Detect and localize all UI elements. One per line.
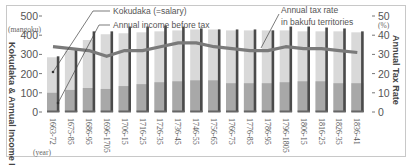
salary-marker [93,31,96,112]
x-unit-label: (year) [33,148,51,157]
annotation-income: Annual income before tax [113,20,210,30]
x-category-label: 1816-25 [317,118,326,145]
salary-marker [200,28,203,112]
y2-axis-title: Annual Tax Rate [391,35,401,105]
x-category-label: 1836-41 [352,118,361,145]
salary-marker [111,31,114,112]
x-category-label: 1663-72 [48,118,57,145]
y-tick-label: 0 [32,106,38,118]
y2-tick-label: 40 [378,29,390,41]
x-category-label: 1706-15 [120,118,129,145]
y2-tick-label: 10 [378,87,390,99]
y2-tick-label: 0 [378,106,384,118]
x-category-label: 1806-15 [299,118,308,145]
y-unit-label: (mangoku) [8,25,41,34]
salary-marker [128,27,131,112]
y2-tick-label: 30 [378,48,390,60]
bar-line-chart: 0100200300400500(mangoku)Kokudaka & Annu… [0,0,410,165]
x-category-label: 1686-95 [84,118,93,145]
x-category-label: 1756-65 [209,118,218,145]
salary-marker [343,28,346,112]
salary-marker [236,29,239,112]
y-tick-label: 100 [20,87,38,99]
x-category-label: 1696-1705 [102,118,111,153]
x-category-label: 1776-85 [245,118,254,145]
x-category-label: 1786-95 [263,118,272,145]
x-category-label: 1826-35 [334,118,343,145]
x-category-label: 1766-75 [227,118,236,145]
y2-unit-label: (%) [378,21,390,30]
annotation-kokudaka: Kokudaka (=salary) [113,6,187,16]
x-category-label: 1726-35 [155,118,164,145]
salary-marker [307,27,310,112]
y2-tick-label: 20 [378,68,390,80]
x-category-label: 1796-1805 [281,118,290,153]
x-category-label: 1746-55 [191,118,200,145]
salary-marker [164,26,167,112]
y-tick-label: 500 [20,10,38,22]
salary-marker [75,49,78,112]
salary-marker [290,27,293,112]
x-category-label: 1736-45 [173,118,182,145]
tax-rate-line [53,43,357,56]
y-tick-label: 300 [20,48,38,60]
x-category-label: 1675-85 [66,118,75,145]
y-tick-label: 200 [20,68,38,80]
annotation-tax-rate-1: Annual tax rate [281,5,338,15]
salary-marker [254,29,257,112]
salary-marker [272,30,275,112]
annotation-tax-rate-2: in bakufu territories [281,17,353,27]
y-axis-title: Kokudaka & Annual Income Before Tax [7,42,17,165]
salary-marker [146,27,149,112]
x-category-label: 1716-25 [138,118,147,145]
salary-marker [325,28,328,112]
salary-marker [361,31,364,112]
salary-marker [182,27,185,112]
salary-marker [218,29,221,112]
